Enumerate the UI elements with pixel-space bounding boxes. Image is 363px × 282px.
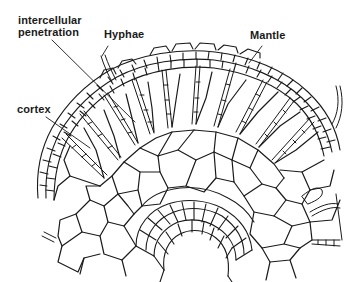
label-cortex: cortex xyxy=(17,103,51,115)
label-intercellular-line2: penetration xyxy=(18,26,82,38)
root-mycorrhiza-diagram xyxy=(0,0,363,282)
mantle-layer xyxy=(38,43,340,200)
endodermis-rings xyxy=(136,187,254,282)
label-hyphae: Hyphae xyxy=(104,28,144,40)
label-intercellular-penetration: intercellular penetration xyxy=(18,14,82,38)
inner-cortex-cells xyxy=(58,130,340,280)
label-intercellular-line1: intercellular xyxy=(18,14,82,26)
extramatrical-hyphae xyxy=(42,55,342,246)
label-mantle: Mantle xyxy=(250,29,285,41)
